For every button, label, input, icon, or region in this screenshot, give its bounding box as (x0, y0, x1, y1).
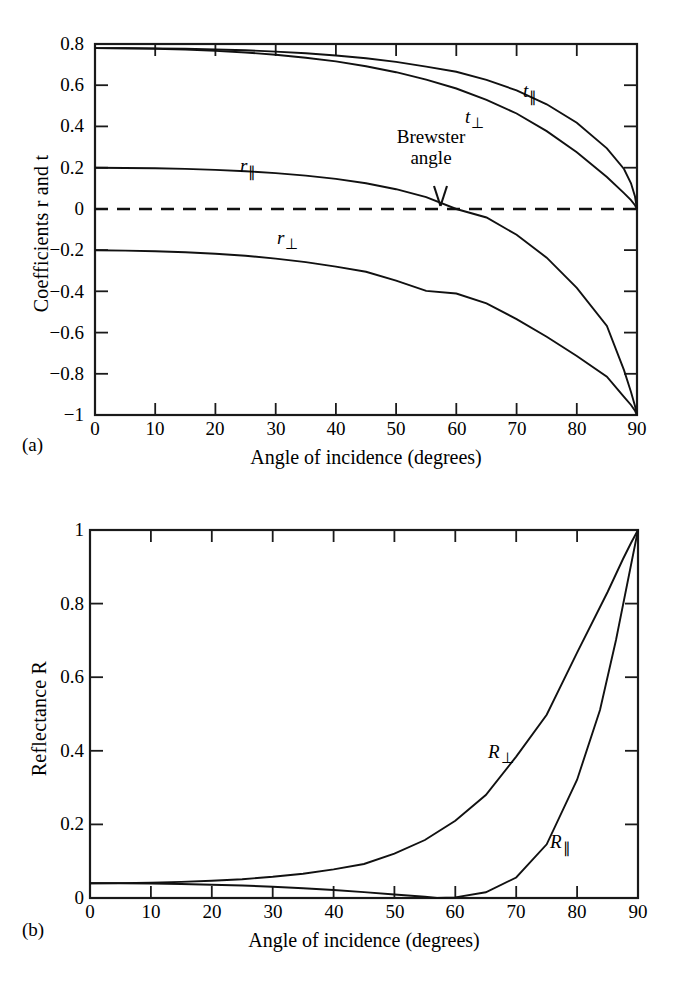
fresnel-coefficients-figure: 0.8 0.6 0.4 0.2 0 −0.2 −0.4 −0.6 −0.8 −1… (0, 0, 685, 991)
brewster-angle-marker (434, 186, 447, 206)
panel-b-ytick-1: 0.8 (22, 593, 84, 615)
panel-b-y-ticks-right (625, 604, 638, 825)
panel-b-xtick-2: 20 (192, 901, 232, 923)
panel-a-ytick-9: −1 (16, 404, 84, 426)
panel-a-ytick-0: 0.8 (22, 33, 84, 55)
panel-b-xtick-0: 0 (70, 901, 110, 923)
panel-a-xtick-7: 70 (497, 418, 537, 440)
panel-a-xtick-3: 30 (256, 418, 296, 440)
panel-a-y-ticks-right (624, 85, 637, 374)
panel-b-xtick-1: 10 (131, 901, 171, 923)
panel-a-xtick-5: 50 (376, 418, 416, 440)
panel-b-xtick-5: 50 (375, 901, 415, 923)
panel-b-ytick-0: 1 (22, 519, 84, 541)
panel-a-coefficients: 0.8 0.6 0.4 0.2 0 −0.2 −0.4 −0.6 −0.8 −1… (0, 0, 685, 496)
panel-a-xtick-2: 20 (195, 418, 235, 440)
panel-b-y-axis-label: Reflectance R (28, 619, 51, 819)
panel-b-x-axis-label: Angle of incidence (degrees) (174, 929, 554, 952)
curve-label-R-perpendicular: R⊥ (488, 741, 514, 767)
brewster-line-1: Brewster (351, 126, 511, 147)
curve-label-r-perpendicular: r⊥ (277, 227, 298, 253)
panel-a-y-axis-label: Coefficients r and t (30, 114, 53, 354)
curve-label-t-parallel: t∥ (523, 80, 537, 106)
curve-label-R-parallel: R∥ (550, 831, 571, 857)
panel-a-xtick-1: 10 (135, 418, 175, 440)
panel-b-xtick-8: 80 (557, 901, 597, 923)
panel-b-x-ticks-top (151, 530, 577, 542)
panel-a-xtick-0: 0 (75, 418, 115, 440)
panel-a-ytick-1: 0.6 (22, 74, 84, 96)
panel-a-xtick-6: 60 (437, 418, 477, 440)
panel-a-frame (95, 44, 637, 415)
panel-a-tag: (a) (22, 434, 43, 456)
panel-a-y-ticks (95, 85, 108, 374)
brewster-angle-annotation: Brewster angle (351, 126, 511, 169)
curve-r-perpendicular (95, 250, 637, 415)
panel-b-xtick-9: 90 (618, 901, 658, 923)
panel-b-tag: (b) (22, 919, 44, 941)
panel-b-xtick-3: 30 (253, 901, 293, 923)
panel-b-reflectance: 1 0.8 0.6 0.4 0.2 0 0 10 20 30 40 50 60 … (0, 495, 685, 991)
panel-b-xtick-4: 40 (314, 901, 354, 923)
brewster-line-2: angle (351, 147, 511, 168)
panel-b-y-ticks (90, 604, 103, 825)
panel-b-xtick-7: 70 (496, 901, 536, 923)
panel-a-xtick-4: 40 (316, 418, 356, 440)
panel-a-xtick-8: 80 (557, 418, 597, 440)
panel-a-xtick-9: 90 (617, 418, 657, 440)
panel-a-ytick-8: −0.8 (16, 363, 84, 385)
curve-label-r-parallel: r∥ (240, 155, 256, 181)
curve-r-parallel (95, 168, 637, 415)
panel-b-xtick-6: 60 (435, 901, 475, 923)
panel-a-x-ticks (155, 403, 577, 415)
panel-a-x-axis-label: Angle of incidence (degrees) (176, 446, 556, 469)
